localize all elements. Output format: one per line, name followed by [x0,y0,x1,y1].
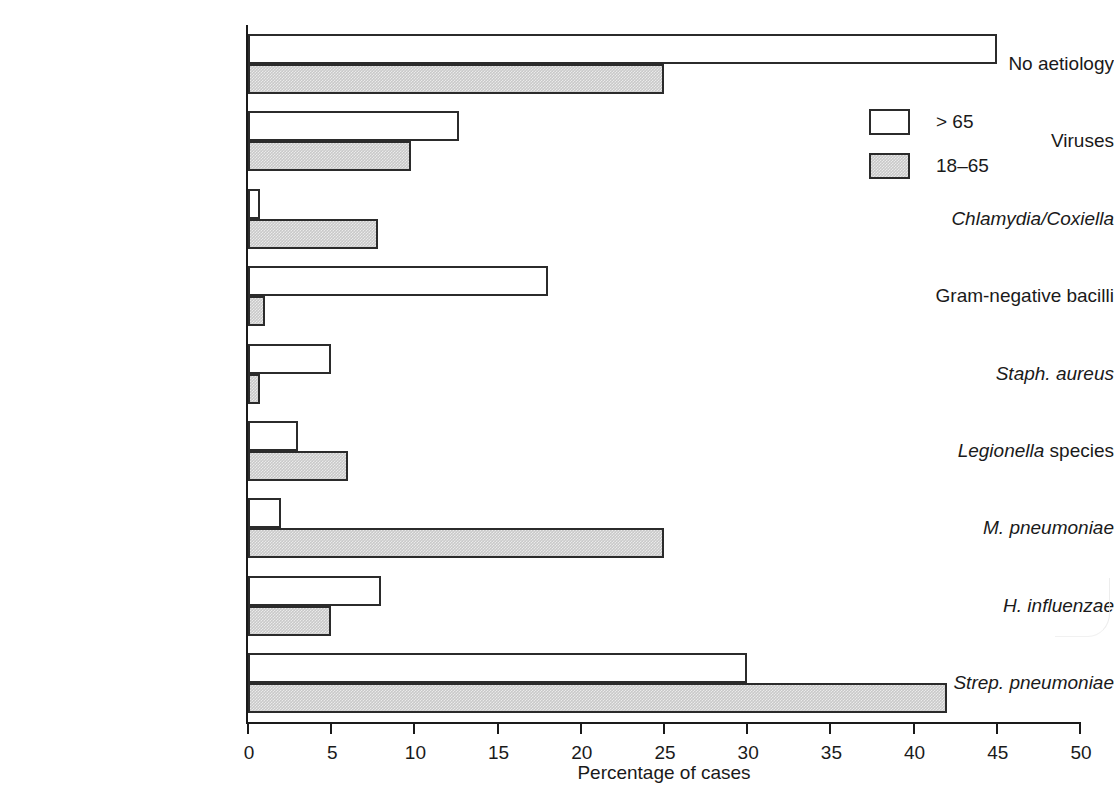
x-tick-label: 45 [968,742,1028,764]
legend-label-18-65: 18–65 [936,155,989,177]
category-label: M. pneumoniae [876,517,1114,539]
legend-entry-gt65: > 65 [869,104,1059,140]
x-tick-label: 0 [219,742,279,764]
x-tick [413,722,415,734]
category-label: No aetiology [876,53,1114,75]
bar-18-65 [248,64,664,94]
x-axis-title: Percentage of cases [248,762,1080,784]
bar-18-65 [248,528,664,558]
category-label: Legionella species [876,440,1114,462]
x-tick-label: 25 [635,742,695,764]
x-tick-label: 15 [469,742,529,764]
x-tick-label: 50 [1051,742,1111,764]
category-label-italic-part: Legionella [958,440,1045,461]
x-tick [247,722,249,734]
category-label: Chlamydia/Coxiella [876,208,1114,230]
x-tick-label: 5 [302,742,362,764]
x-tick [996,722,998,734]
bar-gt65 [248,344,331,374]
x-tick [580,722,582,734]
bar-gt65 [248,653,747,683]
bar-18-65 [248,219,378,249]
category-label: Staph. aureus [876,363,1114,385]
bar-gt65 [248,576,381,606]
x-tick-label: 20 [552,742,612,764]
bar-gt65 [248,266,548,296]
legend-entry-18-65: 18–65 [869,148,1059,184]
x-tick [829,722,831,734]
scan-artifact [1055,578,1110,637]
bar-chart-figure: 05101520253035404550 No aetiologyViruses… [0,0,1114,804]
bar-gt65 [248,498,281,528]
bar-18-65 [248,296,265,326]
bar-gt65 [248,421,298,451]
bar-18-65 [248,374,260,404]
x-tick-label: 35 [801,742,861,764]
category-label: Strep. pneumoniae [876,672,1114,694]
bar-18-65 [248,606,331,636]
x-tick [330,722,332,734]
white-swatch-icon [869,109,910,135]
x-tick [913,722,915,734]
x-tick [497,722,499,734]
x-tick-label: 40 [885,742,945,764]
x-tick [746,722,748,734]
x-tick-label: 10 [385,742,445,764]
chart-legend: > 65 18–65 [869,104,1059,192]
x-tick-label: 30 [718,742,778,764]
legend-label-gt65: > 65 [936,111,974,133]
bar-18-65 [248,451,348,481]
bar-gt65 [248,111,459,141]
x-tick [663,722,665,734]
grey-swatch-icon [869,153,910,179]
bar-gt65 [248,189,260,219]
bar-18-65 [248,141,411,171]
bar-18-65 [248,683,947,713]
category-label: Gram-negative bacilli [876,285,1114,307]
x-tick [1079,722,1081,734]
category-label-plain-part: species [1044,440,1114,461]
